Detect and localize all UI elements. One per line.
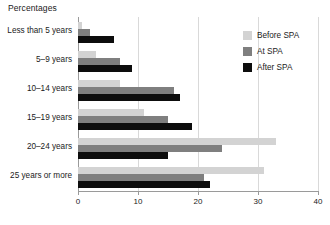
percentages-bar-chart: Percentages Before SPAAt SPAAfter SPA 01… <box>0 0 330 225</box>
bar-group <box>78 133 318 162</box>
bar-2-1 <box>78 87 174 94</box>
bar-2-0 <box>78 80 120 87</box>
x-tick-label-0: 0 <box>76 197 80 206</box>
category-label: 25 years or more <box>0 171 72 180</box>
bar-5-1 <box>78 174 204 181</box>
bar-3-0 <box>78 109 144 116</box>
x-tick-label-30: 30 <box>254 197 263 206</box>
bar-1-0 <box>78 51 96 58</box>
bar-4-2 <box>78 152 168 159</box>
bar-5-2 <box>78 181 210 188</box>
category-label: 5–9 years <box>0 55 72 64</box>
bar-4-1 <box>78 145 222 152</box>
bar-0-2 <box>78 36 114 43</box>
category-label: Less than 5 years <box>0 26 72 35</box>
x-tick-label-40: 40 <box>314 197 323 206</box>
x-tick-mark-40 <box>318 191 319 195</box>
category-label: 15–19 years <box>0 113 72 122</box>
bar-1-1 <box>78 58 120 65</box>
bar-4-0 <box>78 138 276 145</box>
x-tick-label-10: 10 <box>134 197 143 206</box>
category-label: 10–14 years <box>0 84 72 93</box>
bar-group <box>78 104 318 133</box>
x-tick-mark-10 <box>138 191 139 195</box>
category-label: 20–24 years <box>0 142 72 151</box>
bar-3-1 <box>78 116 168 123</box>
chart-title: Percentages <box>8 3 57 13</box>
x-tick-label-20: 20 <box>194 197 203 206</box>
bar-5-0 <box>78 167 264 174</box>
x-tick-mark-0 <box>78 191 79 195</box>
x-tick-mark-30 <box>258 191 259 195</box>
bar-group <box>78 46 318 75</box>
bar-2-2 <box>78 94 180 101</box>
bar-0-0 <box>78 22 82 29</box>
bar-3-2 <box>78 123 192 130</box>
x-tick-mark-20 <box>198 191 199 195</box>
gridline-x-40 <box>318 17 319 191</box>
bar-group <box>78 162 318 191</box>
bar-0-1 <box>78 29 90 36</box>
bar-group <box>78 75 318 104</box>
bar-1-2 <box>78 65 132 72</box>
bar-group <box>78 17 318 46</box>
